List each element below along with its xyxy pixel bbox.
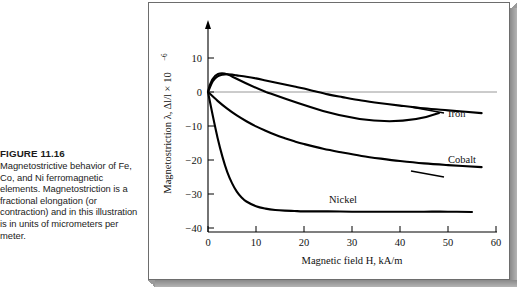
leader-line-cobalt: [411, 171, 444, 177]
y-tick-label: −30: [186, 189, 202, 200]
x-tick-label: 40: [395, 237, 406, 248]
x-tick-label: 10: [251, 237, 262, 248]
panel-bevel-bottom: [155, 280, 517, 287]
y-tick-label: −20: [186, 155, 202, 166]
series-label-cobalt: Cobalt: [448, 154, 476, 165]
series-line-iron: [208, 74, 482, 113]
series-line-cobalt: [208, 92, 482, 167]
y-tick-label: −10: [186, 121, 202, 132]
x-tick-label: 60: [491, 237, 502, 248]
y-axis-arrow: [205, 20, 211, 29]
x-axis-ticks: [208, 226, 496, 232]
series-label-nickel: Nickel: [329, 194, 357, 205]
figure-panel: 10 0 −10 −20 −30 −40 0 10 20 30 40 50 60: [148, 2, 510, 280]
x-tick-label: 0: [205, 237, 210, 248]
series-label-iron: Iron: [448, 108, 466, 119]
y-tick-label: 0: [197, 87, 202, 98]
figure-number-label: FIGURE 11.16: [0, 148, 140, 160]
x-tick-label: 30: [347, 237, 358, 248]
y-tick-label: −40: [186, 223, 202, 234]
y-axis-title-text: Magnetostriction λ, Δl/l × 10: [162, 72, 173, 193]
curve-iron: [208, 73, 439, 121]
y-tick-label: 10: [192, 53, 203, 64]
x-axis-title: Magnetic field H, kA/m: [302, 255, 403, 266]
y-axis-title: Magnetostriction λ, Δl/l × 10 −6: [161, 53, 173, 194]
data-curves-group: [208, 74, 482, 212]
magnetostriction-plot: 10 0 −10 −20 −30 −40 0 10 20 30 40 50 60: [149, 3, 509, 279]
panel-bevel-right: [510, 8, 517, 286]
figure-caption: FIGURE 11.16 Magnetostrictive behavior o…: [0, 148, 140, 241]
y-axis-tick-labels: 10 0 −10 −20 −30 −40: [186, 53, 202, 234]
panel-bevel-corner-bottom-left: [148, 280, 155, 287]
figure-caption-text: Magnetostrictive behavior of Fe, Co, and…: [0, 160, 140, 241]
x-tick-label: 50: [443, 237, 454, 248]
x-axis-tick-labels: 0 10 20 30 40 50 60: [205, 237, 501, 248]
y-axis-title-exponent: −6: [161, 53, 169, 61]
x-tick-label: 20: [299, 237, 310, 248]
